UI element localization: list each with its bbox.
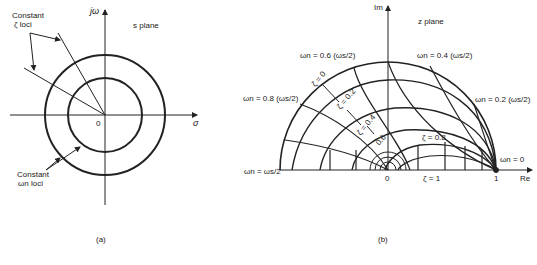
wn-1.0-label: ωn = ωs/2: [244, 167, 281, 176]
zeta-leader: [30, 33, 60, 40]
zeta-annotation-line1: Constant: [12, 11, 45, 20]
zeta-0-label: ζ = 0: [310, 69, 328, 88]
wn-0-point: [494, 168, 499, 173]
s-plane-label: s plane: [133, 21, 159, 30]
wn-0.6-label: ωn = 0.6 (ωs/2): [300, 51, 356, 60]
caption-b: (b): [378, 235, 388, 244]
wn-0.2-locus: [474, 104, 496, 170]
re-axis-label: Re: [520, 174, 531, 183]
z-plane-diagram: [280, 6, 532, 173]
zeta-leader-2: [30, 33, 34, 70]
wn-annotation-line2: ωn loci: [18, 179, 43, 188]
zeta-0.4-locus: [320, 108, 496, 170]
z-origin-label: 0: [385, 174, 390, 183]
s-origin-label: 0: [96, 119, 101, 128]
zeta-0.2-label: ζ = 0.2: [335, 87, 358, 111]
zeta-1-label: ζ = 1: [423, 174, 441, 183]
zeta-locus-1: [58, 33, 105, 115]
zeta-0.8-label: ζ = 0.8: [422, 133, 446, 142]
wn-0.6b-locus: [354, 68, 410, 170]
wn-0.8-label: ωn = 0.8 (ωs/2): [243, 94, 299, 103]
jw-axis-label: jω: [89, 6, 99, 16]
wn-0-label: ωn = 0: [500, 155, 525, 164]
sigma-axis-label: σ: [193, 118, 199, 128]
wn-0.2-label: ωn = 0.2 (ωs/2): [475, 95, 531, 104]
wn-0.6-locus: [388, 62, 496, 170]
zeta-annotation-line2: ζ loci: [14, 20, 32, 29]
zeta-0.4-label: ζ = 0.4: [355, 113, 378, 137]
wn-annotation-line1: Constant: [17, 170, 50, 179]
caption-a: (a): [96, 235, 106, 244]
z-plane-label: z plane: [418, 17, 444, 26]
figure: jω σ s plane 0 Constant ζ loci Constant …: [0, 0, 537, 265]
wn-0.9-locus: [285, 140, 388, 170]
zeta-0.2-leader: [322, 84, 339, 102]
zeta-locus-2: [24, 68, 105, 115]
z-one-label: 1: [494, 174, 499, 183]
wn-0.4-label: ωn = 0.4 (ωs/2): [417, 51, 473, 60]
wn-0.8-locus: [300, 104, 388, 170]
wn-leader-2: [46, 158, 60, 170]
im-axis-label: Im: [374, 3, 383, 12]
